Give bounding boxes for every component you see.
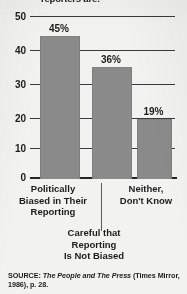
category-axis: Politically Biased in Their Reporting Ne… [0, 183, 187, 263]
y-tick-label-40: 40 [0, 45, 26, 56]
y-tick-label-50: 50 [0, 11, 26, 22]
y-tick-label-10: 10 [0, 143, 26, 154]
gridline-50 [30, 16, 175, 17]
category-line-3a: Neither, [108, 183, 184, 195]
bar-value-label-2: 36% [92, 54, 130, 65]
chart-title-cropped: reporters are: [0, 0, 187, 7]
category-label-careful-not-biased: Careful that Reporting Is Not Biased [40, 227, 148, 262]
category-divider [101, 183, 102, 231]
bar-careful-not-biased[interactable] [92, 67, 132, 179]
category-label-politically-biased: Politically Biased in Their Reporting [8, 183, 98, 218]
category-line-2c: Is Not Biased [40, 250, 148, 262]
y-tick-label-0: 0 [0, 172, 26, 183]
bar-chart-figure: reporters are: 50 40 30 20 10 0 [0, 0, 187, 294]
bar-value-label-1: 45% [40, 23, 78, 34]
gridline-row-50: 50 [0, 11, 187, 22]
category-line-2a: Careful that [40, 227, 148, 239]
chart-title-text: reporters are: [41, 0, 100, 4]
category-line-1b: Biased in Their [8, 195, 98, 207]
category-line-2b: Reporting [40, 239, 148, 251]
plot-area: 50 40 30 20 10 0 45% 36% 19% [0, 7, 187, 182]
bar-neither-dont-know[interactable] [137, 119, 172, 179]
source-publication-title: The People and The Press [43, 271, 131, 280]
bar-politically-biased[interactable] [40, 36, 80, 179]
source-prefix: SOURCE: [8, 271, 43, 280]
bar-value-label-3: 19% [135, 106, 172, 117]
source-note: SOURCE: The People and The Press (Times … [8, 271, 183, 289]
category-line-1c: Reporting [8, 206, 98, 218]
y-tick-label-30: 30 [0, 79, 26, 90]
category-line-1a: Politically [8, 183, 98, 195]
category-label-neither-dont-know: Neither, Don't Know [108, 183, 184, 206]
y-tick-label-20: 20 [0, 113, 26, 124]
category-line-3b: Don't Know [108, 195, 184, 207]
